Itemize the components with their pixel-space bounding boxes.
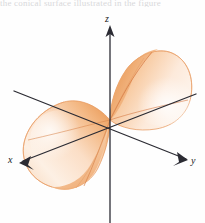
3d-plot-canvas (0, 0, 205, 223)
cone-left-sheen (30, 110, 90, 170)
cone-right-sheen (130, 70, 190, 126)
z-axis-label: z (105, 14, 109, 24)
conical-surface-figure: the conical surface illustrated in the f… (0, 0, 205, 223)
x-axis-label: x (8, 155, 12, 165)
cone-right-nappe (110, 49, 192, 130)
cone-left-nappe (23, 101, 110, 190)
y-axis-label: y (191, 156, 195, 166)
